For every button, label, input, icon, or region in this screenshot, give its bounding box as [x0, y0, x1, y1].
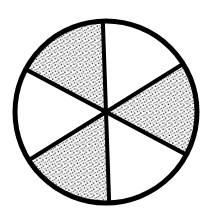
fraction-circle-diagram: Circle divided into six equal sectors wi…: [0, 0, 212, 220]
sector-group: [9, 15, 203, 209]
figure-root: Circle divided into six equal sectors wi…: [0, 0, 212, 220]
